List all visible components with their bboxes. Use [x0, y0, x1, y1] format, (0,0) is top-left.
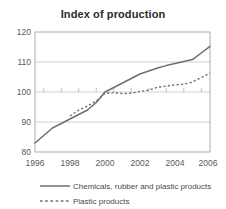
x-tick-2002: 2002: [131, 158, 150, 168]
x-tick-2006: 2006: [199, 158, 218, 168]
series-chemicals-rubber-plastic: [35, 46, 210, 143]
legend-label-plastic: Plastic products: [73, 197, 129, 206]
chart-plot-area: 120 110 100 90 80 1996 1998 2000 2002 20…: [0, 0, 226, 209]
index-of-production-chart: Index of production 120 110 100: [0, 0, 226, 209]
baseline-ticks: [44, 88, 202, 92]
y-tick-80: 80: [22, 147, 32, 157]
y-tick-90: 90: [22, 117, 32, 127]
x-tick-2004: 2004: [166, 158, 185, 168]
chart-legend: Chemicals, rubber and plastic products P…: [40, 182, 211, 206]
y-axis-labels: 120 110 100 90 80: [17, 27, 31, 157]
series-plastic-products: [70, 73, 210, 116]
y-tick-120: 120: [17, 27, 31, 37]
legend-label-chemicals: Chemicals, rubber and plastic products: [73, 182, 211, 191]
x-tick-1996: 1996: [26, 158, 45, 168]
y-tick-110: 110: [17, 57, 31, 67]
x-tick-1998: 1998: [61, 158, 80, 168]
x-tick-2000: 2000: [96, 158, 115, 168]
y-tick-100: 100: [17, 87, 31, 97]
x-axis-labels: 1996 1998 2000 2002 2004 2006: [26, 158, 218, 168]
